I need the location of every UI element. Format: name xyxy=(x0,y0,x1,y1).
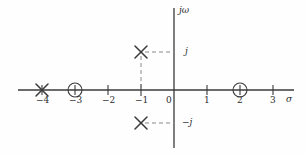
tick-label-neg3: −3 xyxy=(69,96,82,105)
label-minus-j: −j xyxy=(182,118,192,127)
real-axis-label: σ xyxy=(286,95,292,104)
tick-label-zero: 0 xyxy=(166,96,172,105)
pole-zero-plot: −4 −3 −2 −1 0 1 2 3 σ jω j −j xyxy=(0,0,306,154)
pole-markers-group xyxy=(36,46,147,129)
guide-lines-group xyxy=(141,52,175,123)
label-j: j xyxy=(185,47,188,56)
tick-label-pos1: 1 xyxy=(204,96,210,105)
imaginary-axis-label: jω xyxy=(179,6,189,15)
tick-label-pos2: 2 xyxy=(237,96,243,105)
plot-canvas xyxy=(0,0,306,154)
tick-label-pos3: 3 xyxy=(270,96,276,105)
tick-label-neg4: −4 xyxy=(36,96,49,105)
tick-label-neg1: −1 xyxy=(135,96,148,105)
axes-group xyxy=(18,8,294,148)
tick-label-neg2: −2 xyxy=(102,96,115,105)
